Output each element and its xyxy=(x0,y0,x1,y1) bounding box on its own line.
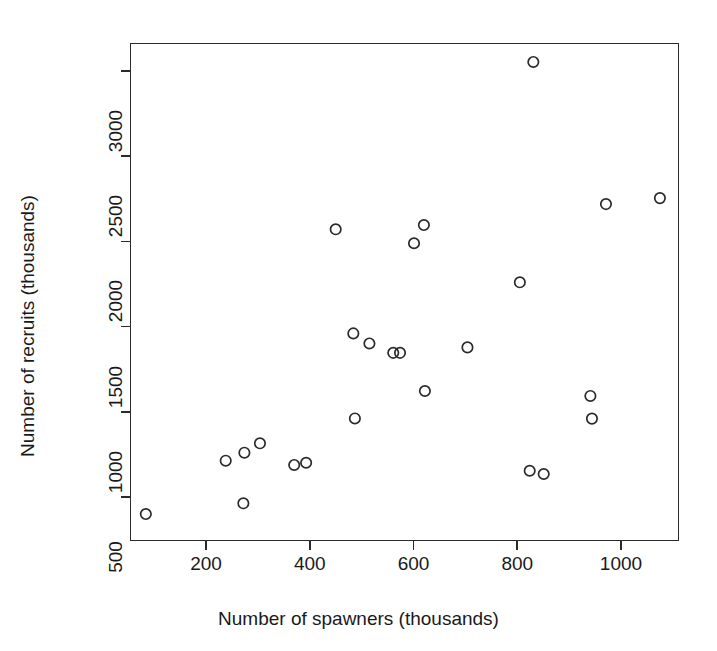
y-axis-title: Number of recruits (thousands) xyxy=(14,0,42,651)
x-axis-tick xyxy=(205,541,207,550)
y-axis-tick-label: 3000 xyxy=(105,71,127,191)
x-axis-tick xyxy=(309,541,311,550)
y-axis-title-text: Number of recruits (thousands) xyxy=(17,195,39,457)
x-axis-tick-label: 800 xyxy=(501,553,533,575)
x-axis-tick-label: 400 xyxy=(294,553,326,575)
x-axis-tick xyxy=(620,541,622,550)
x-axis-tick xyxy=(516,541,518,550)
x-axis-tick-label: 600 xyxy=(398,553,430,575)
plot-frame xyxy=(130,43,679,541)
x-axis-tick-label: 200 xyxy=(190,553,222,575)
scatter-plot-figure: 50010001500200025003000 2004006008001000… xyxy=(0,0,717,651)
x-axis-title: Number of spawners (thousands) xyxy=(0,608,717,630)
x-axis-tick-label: 1000 xyxy=(600,553,642,575)
x-axis-tick xyxy=(413,541,415,550)
